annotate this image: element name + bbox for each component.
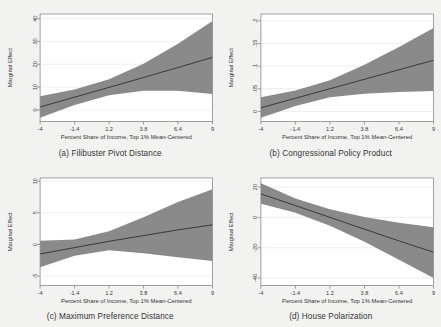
panel-a: 010203040-4-1.41.23.86.49Percent Share o… xyxy=(0,0,221,164)
svg-text:Marginal Effect: Marginal Effect xyxy=(7,48,13,88)
svg-text:-4: -4 xyxy=(38,126,43,132)
svg-text:0: 0 xyxy=(252,110,258,113)
svg-text:0: 0 xyxy=(252,215,258,218)
svg-text:10: 10 xyxy=(32,84,38,90)
svg-text:10: 10 xyxy=(32,178,38,184)
svg-text:Percent Share of Income, Top 1: Percent Share of Income, Top 1% Mean-Cen… xyxy=(61,298,192,304)
svg-text:1.2: 1.2 xyxy=(326,290,334,296)
svg-text:9: 9 xyxy=(431,290,434,296)
svg-text:-5: -5 xyxy=(32,273,38,278)
svg-text:-4: -4 xyxy=(258,290,263,296)
svg-text:30: 30 xyxy=(32,38,38,44)
panel-c: -50510-4-1.41.23.86.49Percent Share of I… xyxy=(0,164,221,327)
svg-text:-4: -4 xyxy=(258,126,263,132)
svg-text:-4: -4 xyxy=(38,290,43,296)
svg-text:Percent Share of Income, Top 1: Percent Share of Income, Top 1% Mean-Cen… xyxy=(282,134,412,140)
panel-d-caption: (d) House Polarization xyxy=(221,312,441,321)
svg-text:-20: -20 xyxy=(252,243,258,251)
panel-a-plot: 010203040-4-1.41.23.86.49Percent Share o… xyxy=(0,0,221,164)
svg-text:.05: .05 xyxy=(252,85,258,93)
svg-text:Marginal Effect: Marginal Effect xyxy=(7,211,13,250)
svg-text:Marginal Effect: Marginal Effect xyxy=(227,48,233,88)
svg-text:-40: -40 xyxy=(252,274,258,282)
svg-text:3.8: 3.8 xyxy=(360,290,368,296)
svg-text:0: 0 xyxy=(32,242,38,245)
panel-d: -40-20020-4-1.41.23.86.49Percent Share o… xyxy=(221,164,441,327)
panel-a-caption: (a) Filibuster Pivot Distance xyxy=(0,149,221,158)
svg-text:20: 20 xyxy=(32,61,38,67)
svg-text:-1.4: -1.4 xyxy=(70,126,80,132)
panel-c-plot: -50510-4-1.41.23.86.49Percent Share of I… xyxy=(0,164,221,327)
svg-text:3.8: 3.8 xyxy=(140,290,148,296)
svg-text:6.4: 6.4 xyxy=(395,126,403,132)
svg-text:-1.4: -1.4 xyxy=(70,290,80,296)
svg-text:Percent Share of Income, Top 1: Percent Share of Income, Top 1% Mean-Cen… xyxy=(61,134,192,140)
svg-text:5: 5 xyxy=(32,211,38,214)
svg-text:Marginal Effect: Marginal Effect xyxy=(227,211,233,250)
svg-text:9: 9 xyxy=(211,290,214,296)
svg-text:6.4: 6.4 xyxy=(174,290,182,296)
svg-text:9: 9 xyxy=(211,126,214,132)
svg-text:1.2: 1.2 xyxy=(105,126,113,132)
svg-text:1.2: 1.2 xyxy=(105,290,113,296)
panel-c-caption: (c) Maximum Preference Distance xyxy=(0,312,221,321)
svg-text:-1.4: -1.4 xyxy=(290,126,300,132)
svg-text:40: 40 xyxy=(32,15,38,21)
svg-text:9: 9 xyxy=(431,126,434,132)
svg-text:.2: .2 xyxy=(252,18,258,23)
svg-text:1.2: 1.2 xyxy=(326,126,334,132)
svg-text:0: 0 xyxy=(32,108,38,111)
svg-text:20: 20 xyxy=(252,183,258,189)
svg-text:.1: .1 xyxy=(252,64,258,69)
svg-text:-1.4: -1.4 xyxy=(290,290,300,296)
panel-b: 0.05.1.15.2-4-1.41.23.86.49Percent Share… xyxy=(221,0,441,164)
svg-text:Percent Share of Income, Top 1: Percent Share of Income, Top 1% Mean-Cen… xyxy=(282,298,412,304)
panel-d-plot: -40-20020-4-1.41.23.86.49Percent Share o… xyxy=(221,164,441,327)
panel-grid: 010203040-4-1.41.23.86.49Percent Share o… xyxy=(0,0,441,327)
svg-text:3.8: 3.8 xyxy=(140,126,148,132)
svg-text:.15: .15 xyxy=(252,40,258,48)
svg-text:6.4: 6.4 xyxy=(174,126,182,132)
svg-text:3.8: 3.8 xyxy=(360,126,368,132)
svg-text:6.4: 6.4 xyxy=(395,290,403,296)
panel-b-plot: 0.05.1.15.2-4-1.41.23.86.49Percent Share… xyxy=(221,0,441,164)
figure-panel-grid: 010203040-4-1.41.23.86.49Percent Share o… xyxy=(0,0,441,327)
panel-b-caption: (b) Congressional Policy Product xyxy=(221,149,441,158)
